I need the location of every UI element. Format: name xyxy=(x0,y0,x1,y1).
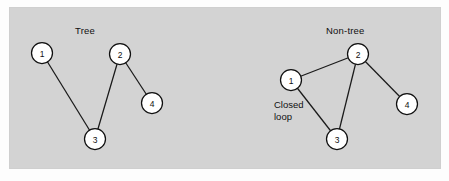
node-label: 3 xyxy=(335,135,340,145)
node-label: 1 xyxy=(40,49,45,59)
node-4: 4 xyxy=(397,94,418,115)
node-label: 1 xyxy=(289,76,294,86)
node-2: 2 xyxy=(348,44,369,65)
tree-nodes: 1 2 3 4 xyxy=(32,43,163,150)
node-1: 1 xyxy=(281,70,302,91)
node-3: 3 xyxy=(85,129,106,150)
closed-loop-annotation: Closed loop xyxy=(274,99,304,123)
edge-2-3 xyxy=(337,54,358,139)
closed-loop-line-1: Closed xyxy=(274,99,304,111)
non-tree-title: Non-tree xyxy=(326,25,365,36)
node-4: 4 xyxy=(142,93,163,114)
tree-title: Tree xyxy=(75,25,95,36)
nontree-nodes: 1 2 3 4 xyxy=(281,44,418,150)
figure-container: 1 2 3 4 xyxy=(0,0,449,181)
node-label: 3 xyxy=(93,135,98,145)
graph-tree: 1 2 3 4 xyxy=(32,43,163,150)
edge-1-3 xyxy=(42,53,95,139)
tree-edges xyxy=(42,53,152,139)
nontree-edges xyxy=(291,54,407,139)
node-3: 3 xyxy=(327,129,348,150)
node-label: 4 xyxy=(150,99,155,109)
edge-3-2 xyxy=(95,54,120,139)
node-1: 1 xyxy=(32,43,53,64)
graph-non-tree: 1 2 3 4 xyxy=(281,44,418,150)
node-label: 2 xyxy=(356,50,361,60)
node-label: 2 xyxy=(118,50,123,60)
node-label: 4 xyxy=(405,100,410,110)
closed-loop-line-2: loop xyxy=(274,111,304,123)
graph-canvas: 1 2 3 4 xyxy=(0,0,449,181)
node-2: 2 xyxy=(110,44,131,65)
